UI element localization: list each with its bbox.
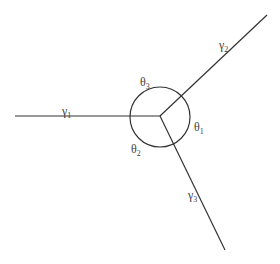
junction-diagram: γ1γ2γ3θ1θ2θ3: [0, 0, 280, 264]
gamma2-ray: [160, 15, 267, 116]
gamma2-label: γ2: [218, 38, 228, 54]
gamma1-label: γ1: [61, 104, 71, 120]
theta2-label: θ2: [131, 142, 141, 158]
theta1-label: θ1: [194, 120, 204, 136]
gamma3-ray: [160, 116, 225, 250]
theta3-label: θ3: [140, 75, 150, 91]
